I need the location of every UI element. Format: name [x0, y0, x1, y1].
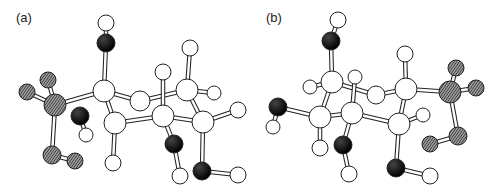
hydrogen-atom: [312, 140, 328, 156]
phosphate-atom: [19, 84, 35, 100]
phosphate-atom: [468, 80, 484, 96]
hydrogen-atom: [79, 128, 93, 142]
hydrogen-atom: [172, 168, 188, 184]
hydrogen-atom: [230, 167, 246, 183]
oxygen-atom: [334, 136, 352, 154]
hydrogen-atom: [348, 70, 362, 84]
oxygen-atom: [322, 32, 340, 50]
oxygen-atom: [387, 159, 405, 177]
phosphate-atom: [439, 81, 461, 103]
carbon-atom: [104, 112, 126, 134]
carbon-atom: [176, 79, 198, 101]
carbon-atom: [152, 105, 174, 127]
carbon-atom: [367, 86, 385, 104]
carbon-atom: [192, 111, 214, 133]
carbon-atom: [93, 80, 115, 102]
carbon-atom: [321, 71, 343, 93]
hydrogen-atom: [207, 86, 221, 100]
hydrogen-atom: [416, 108, 430, 122]
atoms-layer: [19, 12, 484, 184]
hydrogen-atom: [397, 46, 413, 62]
oxygen-atom: [97, 34, 115, 52]
phosphate-atom: [40, 72, 56, 88]
hydrogen-atom: [422, 168, 438, 184]
hydrogen-atom: [303, 80, 317, 94]
hydrogen-atom: [341, 166, 357, 182]
phosphate-atom: [422, 136, 438, 152]
hydrogen-atom: [182, 40, 198, 56]
oxygen-atom: [71, 107, 89, 125]
carbon-atom: [309, 106, 331, 128]
oxygen-atom: [165, 135, 183, 153]
phosphate-atom: [67, 153, 83, 169]
carbon-atom: [395, 78, 417, 100]
molecule-diagram: [0, 0, 500, 194]
phosphate-atom: [44, 94, 66, 116]
phosphate-atom: [43, 146, 61, 164]
hydrogen-atom: [330, 12, 346, 28]
hydrogen-atom: [155, 64, 171, 80]
hydrogen-atom: [98, 15, 114, 31]
phosphate-atom: [448, 60, 464, 76]
carbon-atom: [388, 113, 410, 135]
phosphate-atom: [449, 127, 467, 145]
oxygen-atom: [193, 162, 211, 180]
hydrogen-atom: [266, 120, 280, 134]
carbon-atom: [130, 91, 150, 111]
hydrogen-atom: [105, 155, 121, 171]
carbon-atom: [341, 102, 363, 124]
oxygen-atom: [269, 98, 287, 116]
hydrogen-atom: [230, 102, 246, 118]
